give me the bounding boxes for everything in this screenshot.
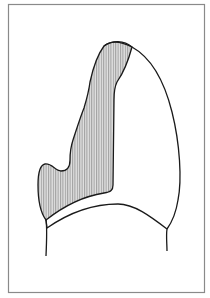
- tooth-diagram: [0, 0, 210, 298]
- root-left: [46, 220, 47, 256]
